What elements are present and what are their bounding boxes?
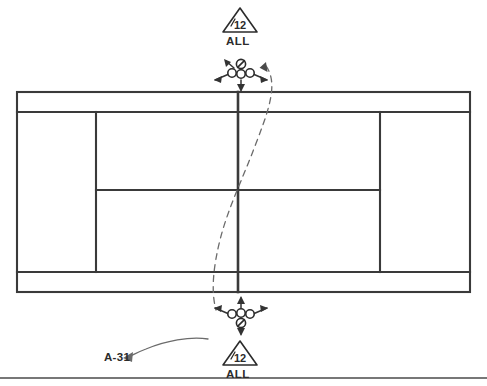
diagram-canvas: 12 12 bbox=[0, 0, 487, 386]
near-arrowhead-up bbox=[237, 296, 245, 304]
far-player-3 bbox=[246, 69, 254, 77]
callout-label: A-31 bbox=[104, 352, 130, 364]
far-arrowhead-right bbox=[260, 76, 268, 83]
sign-top-number: 12 bbox=[234, 19, 246, 31]
player-group-far bbox=[214, 59, 268, 92]
far-arrowhead-up bbox=[224, 59, 231, 67]
player-group-near bbox=[214, 296, 268, 336]
far-arrowhead-left bbox=[214, 76, 222, 83]
ball-path-arrowhead bbox=[260, 61, 272, 72]
callout-arrow-curve bbox=[128, 338, 208, 357]
near-player-1 bbox=[228, 310, 236, 318]
near-player-2 bbox=[237, 309, 245, 317]
near-arrowhead-down bbox=[237, 328, 245, 336]
near-arrowhead-right bbox=[260, 305, 268, 312]
near-player-3 bbox=[246, 310, 254, 318]
sign-bottom-label: ALL bbox=[226, 369, 250, 381]
tennis-court bbox=[17, 92, 470, 292]
ball-path bbox=[213, 66, 272, 310]
far-player-2 bbox=[237, 70, 245, 78]
court-outer-boundary bbox=[17, 92, 470, 292]
sign-bottom-number: 12 bbox=[234, 352, 246, 364]
near-arrowhead-left bbox=[214, 305, 222, 312]
sign-top-label: ALL bbox=[226, 36, 250, 48]
drill-diagram-page: 12 12 ALL ALL A-31 bbox=[0, 0, 487, 386]
ball-path-curve bbox=[213, 66, 272, 310]
far-player-1 bbox=[228, 69, 236, 77]
callout-arrow bbox=[128, 338, 208, 357]
